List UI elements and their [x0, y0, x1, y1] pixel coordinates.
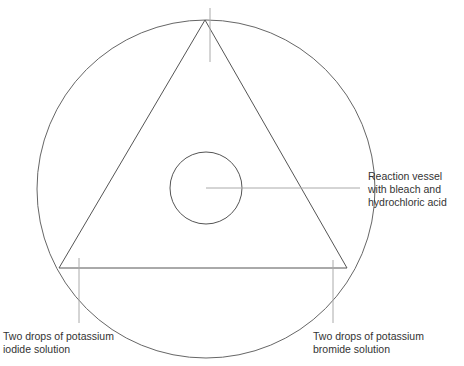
outer-dish-circle: [37, 20, 375, 358]
iodide-label-line1: Two drops of potassium: [3, 330, 114, 343]
vessel-label-line1: Reaction vessel: [368, 170, 447, 183]
triangle-template: [59, 20, 347, 268]
vessel-label-line2: with bleach and: [368, 183, 447, 196]
bromide-label-line2: bromide solution: [313, 343, 424, 356]
vessel-label-line3: hydrochloric acid: [368, 196, 447, 209]
iodide-label: Two drops of potassium iodide solution: [3, 330, 114, 356]
iodide-label-line2: iodide solution: [3, 343, 114, 356]
bromide-label: Two drops of potassium bromide solution: [313, 330, 424, 356]
vessel-label: Reaction vessel with bleach and hydrochl…: [368, 170, 447, 209]
bromide-label-line1: Two drops of potassium: [313, 330, 424, 343]
